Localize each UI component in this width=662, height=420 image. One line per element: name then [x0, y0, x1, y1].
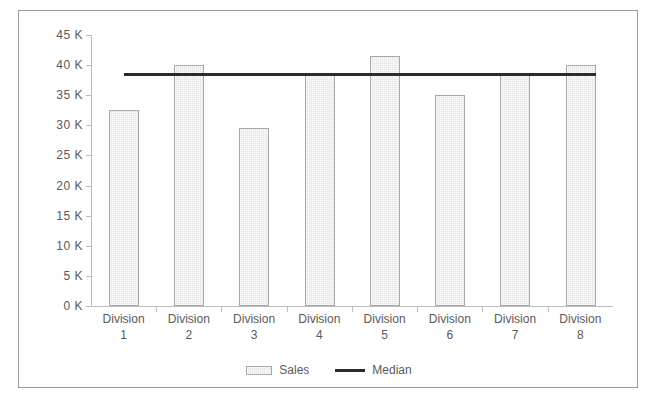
- x-axis-label-division-3: Division 3: [222, 311, 287, 357]
- bar-texture: [240, 129, 268, 305]
- bar-texture: [371, 57, 399, 305]
- bar-texture: [567, 66, 595, 305]
- x-label-line1: Division: [352, 311, 417, 327]
- bar-texture: [501, 75, 529, 305]
- x-label-line2: 6: [417, 327, 482, 343]
- x-label-line1: Division: [156, 311, 221, 327]
- x-label-line2: 7: [483, 327, 548, 343]
- y-axis-label: 10 K: [56, 240, 83, 252]
- y-axis-label: 45 K: [56, 29, 83, 41]
- bar-division-6: [435, 95, 465, 306]
- bar-division-4: [305, 74, 335, 306]
- legend-label-sales: Sales: [279, 363, 309, 377]
- x-axis-label-division-6: Division 6: [417, 311, 482, 357]
- y-axis-label: 15 K: [56, 210, 83, 222]
- bar-texture: [175, 66, 203, 305]
- bar-texture: [110, 111, 138, 305]
- legend-bar-swatch-icon: [246, 366, 272, 375]
- x-axis-labels: Division 1 Division 2 Division 3 Divisio…: [91, 311, 613, 357]
- median-line: [124, 73, 596, 76]
- bar-division-7: [500, 74, 530, 306]
- chart-legend: Sales Median: [19, 363, 639, 377]
- bar-texture: [306, 75, 334, 305]
- legend-item-median: Median: [335, 363, 411, 377]
- x-axis-label-division-7: Division 7: [483, 311, 548, 357]
- x-label-line1: Division: [287, 311, 352, 327]
- x-label-line2: 2: [156, 327, 221, 343]
- x-axis-label-division-8: Division 8: [548, 311, 613, 357]
- y-axis-label: 40 K: [56, 59, 83, 71]
- x-label-line1: Division: [417, 311, 482, 327]
- x-axis-label-division-5: Division 5: [352, 311, 417, 357]
- x-axis-label-division-1: Division 1: [91, 311, 156, 357]
- x-axis-label-division-2: Division 2: [156, 311, 221, 357]
- chart-frame: 45 K 40 K 35 K 30 K 25 K 20 K 15 K 10 K: [18, 10, 638, 388]
- y-axis-label: 20 K: [56, 180, 83, 192]
- x-label-line2: 8: [548, 327, 613, 343]
- x-label-line1: Division: [222, 311, 287, 327]
- x-label-line2: 4: [287, 327, 352, 343]
- y-axis-label: 30 K: [56, 119, 83, 131]
- x-label-line2: 1: [91, 327, 156, 343]
- x-label-line1: Division: [548, 311, 613, 327]
- y-axis-line: [91, 35, 92, 307]
- x-label-line2: 5: [352, 327, 417, 343]
- x-label-line2: 3: [222, 327, 287, 343]
- plot-area: 45 K 40 K 35 K 30 K 25 K 20 K 15 K 10 K: [91, 35, 613, 307]
- legend-label-median: Median: [372, 363, 411, 377]
- legend-line-swatch-icon: [335, 369, 365, 372]
- y-axis-label: 25 K: [56, 149, 83, 161]
- bar-division-5: [370, 56, 400, 306]
- bar-division-8: [566, 65, 596, 306]
- x-axis-label-division-4: Division 4: [287, 311, 352, 357]
- y-axis-label: 0 K: [63, 300, 83, 312]
- legend-item-sales: Sales: [246, 363, 309, 377]
- bar-texture: [436, 96, 464, 305]
- bar-division-1: [109, 110, 139, 306]
- y-axis-label: 5 K: [63, 270, 83, 282]
- y-axis-label: 35 K: [56, 89, 83, 101]
- bar-division-3: [239, 128, 269, 306]
- x-label-line1: Division: [91, 311, 156, 327]
- x-label-line1: Division: [483, 311, 548, 327]
- bar-division-2: [174, 65, 204, 306]
